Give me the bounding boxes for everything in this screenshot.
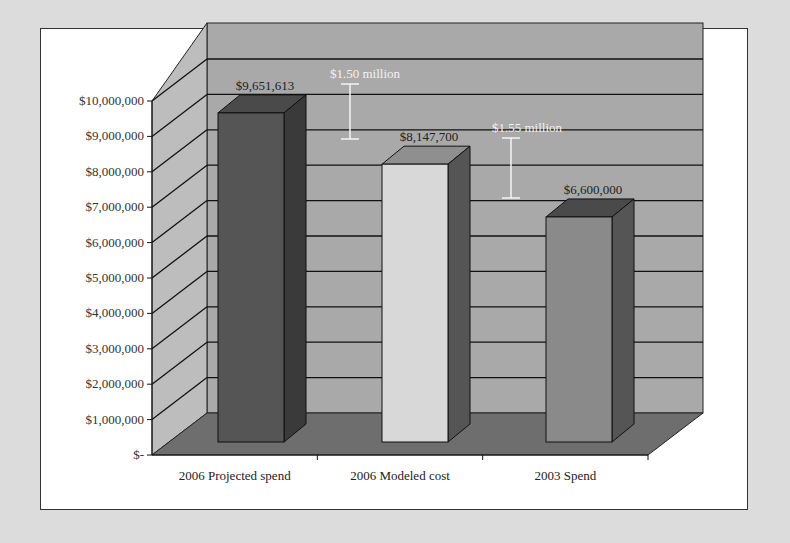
y-tick-label: $4,000,000 [86, 305, 145, 320]
bar-3 [546, 199, 634, 442]
bar-chart: $-$1,000,000$2,000,000$3,000,000$4,000,0… [0, 0, 790, 543]
svg-text:$1.50 million: $1.50 million [330, 66, 401, 81]
value-label: $8,147,700 [400, 129, 459, 144]
bar-1 [218, 95, 306, 442]
bar-2 [382, 146, 470, 442]
y-tick-label: $8,000,000 [86, 164, 145, 179]
y-tick-label: $- [133, 447, 144, 462]
y-tick-label: $9,000,000 [86, 128, 145, 143]
side-wall [152, 23, 207, 455]
svg-text:$1.55 million: $1.55 million [492, 120, 563, 135]
value-label: $9,651,613 [236, 78, 295, 93]
category-label: 2006 Modeled cost [350, 468, 450, 483]
category-label: 2003 Spend [534, 468, 596, 483]
category-label: 2006 Projected spend [179, 468, 291, 483]
y-tick-label: $5,000,000 [86, 270, 145, 285]
y-tick-label: $2,000,000 [86, 376, 145, 391]
y-tick-label: $1,000,000 [86, 412, 145, 427]
value-label: $6,600,000 [564, 182, 623, 197]
y-tick-label: $10,000,000 [79, 93, 144, 108]
y-tick-label: $6,000,000 [86, 235, 145, 250]
y-tick-label: $3,000,000 [86, 341, 145, 356]
y-tick-label: $7,000,000 [86, 199, 145, 214]
